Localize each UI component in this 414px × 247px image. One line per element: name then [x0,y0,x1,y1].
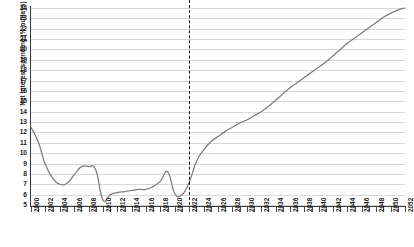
y-axis-tick-label: 18 [20,67,27,74]
x-axis-tick-label: 2030 [249,198,255,212]
x-axis-tick-label: 2004 [62,198,68,212]
y-axis-tick-label: 16 [20,88,27,95]
x-axis-tick-label: 2032 [264,198,270,212]
x-axis-tick-label: 2022 [192,198,198,212]
x-axis-tick-label: 2038 [307,198,313,212]
x-axis-tick-label: 2018 [163,198,169,212]
y-axis-tick-labels: 56789101112131415161718192021222324 [0,8,29,205]
x-axis-tick-label: 2024 [206,198,212,212]
y-axis-tick-label: 6 [23,191,27,198]
series-line-net-interest-spending [31,8,405,205]
x-axis-tick-label: 2012 [120,198,126,212]
y-axis-tick-label: 5 [23,202,27,209]
x-axis-tick-label: 2008 [91,198,97,212]
x-axis-tick-label: 2002 [48,198,54,212]
x-axis-tick-label: 2040 [321,198,327,212]
y-axis-tick-label: 14 [20,108,27,115]
x-axis-tick-label: 2016 [149,198,155,212]
x-axis-tick-label: 2006 [77,198,83,212]
x-axis-tick-label: 2044 [350,198,356,212]
projection-divider-line [189,0,190,205]
y-axis-tick-label: 12 [20,129,27,136]
x-axis-tick-label: 2046 [364,198,370,212]
x-axis-tick-label: 2020 [177,198,183,212]
y-axis-tick-label: 24 [20,5,27,12]
series-path [31,8,405,202]
x-axis-tick-label: 2052 [408,198,414,212]
x-axis-tick-label: 2026 [221,198,227,212]
plot-area [31,8,405,205]
y-axis-tick-label: 7 [23,181,27,188]
x-axis-tick [405,207,406,212]
x-axis-tick-label: 2014 [134,198,140,212]
y-axis-tick-label: 11 [20,139,27,146]
y-axis-tick-label: 15 [20,98,27,105]
y-axis-tick-label: 17 [20,77,27,84]
x-axis-tick-label: 2048 [379,198,385,212]
x-axis-tick-label: 2050 [393,198,399,212]
x-axis-tick-labels: 2000200220042006200820102012201420162018… [31,212,405,246]
y-axis-tick-label: 20 [20,46,27,53]
y-axis-tick-label: 21 [20,36,27,43]
x-axis-tick-label: 2042 [336,198,342,212]
y-axis-tick-label: 22 [20,25,27,32]
y-axis-tick-label: 19 [20,57,27,64]
y-axis-tick-label: 9 [23,160,27,167]
x-axis-tick-label: 2036 [293,198,299,212]
y-axis-tick-label: 8 [23,171,27,178]
x-axis-tick-label: 2000 [34,198,40,212]
y-axis-tick-label: 13 [20,119,27,126]
x-axis-tick-label: 2034 [278,198,284,212]
x-axis-tick-label: 2010 [106,198,112,212]
y-axis-tick-label: 23 [20,15,27,22]
x-axis-tick-label: 2028 [235,198,241,212]
y-axis-tick-label: 10 [20,150,27,157]
